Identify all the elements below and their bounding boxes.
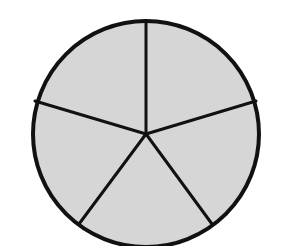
- fraction-circle-diagram: [0, 0, 281, 246]
